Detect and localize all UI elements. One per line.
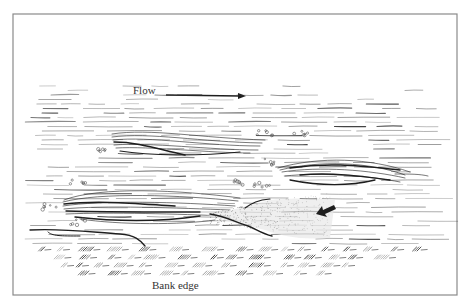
flow-label: Flow — [133, 84, 156, 96]
streak-bundle-upper-left — [112, 132, 265, 155]
stippled-wake — [205, 193, 335, 238]
figure-frame — [13, 14, 457, 295]
flow-arrow-icon — [166, 93, 246, 99]
bank-edge-label: Bank edge — [152, 279, 199, 291]
flow-diagram: Flow — [0, 0, 465, 304]
bank-grass — [39, 247, 428, 275]
